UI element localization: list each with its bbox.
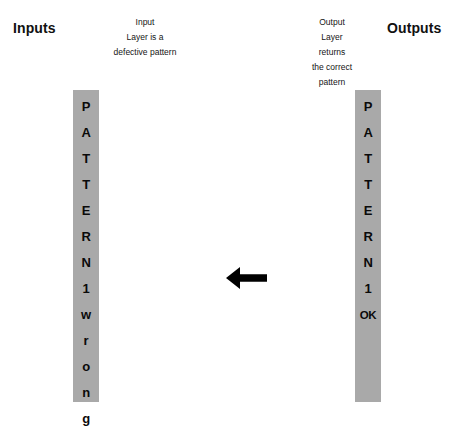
output-pattern-cell xyxy=(355,328,381,354)
input-pattern-cell: T xyxy=(73,146,99,172)
output-pattern-cell xyxy=(355,406,381,430)
input-caption-line-2: Layer is a xyxy=(85,30,205,45)
input-pattern-cell: R xyxy=(73,224,99,250)
input-caption-line-3: defective pattern xyxy=(85,45,205,60)
input-pattern-cell: E xyxy=(73,198,99,224)
output-pattern-cell xyxy=(355,354,381,380)
inputs-heading: Inputs xyxy=(13,20,56,36)
output-pattern-cell: R xyxy=(355,224,381,250)
output-pattern-cell: A xyxy=(355,120,381,146)
output-pattern-cell: T xyxy=(355,172,381,198)
output-pattern-cell: 1 xyxy=(355,276,381,302)
output-pattern-cell: T xyxy=(355,146,381,172)
diagram-canvas: Inputs Outputs Input Layer is a defectiv… xyxy=(0,0,463,430)
left-arrow-icon xyxy=(224,264,268,292)
output-pattern-cell xyxy=(355,380,381,406)
output-pattern-bar: P A T T E R N 1 OK xyxy=(355,90,381,402)
output-pattern-cell: P xyxy=(355,94,381,120)
input-pattern-cell: w xyxy=(73,302,99,328)
output-pattern-cell: OK xyxy=(355,302,381,328)
output-pattern-cell: N xyxy=(355,250,381,276)
input-pattern-cell: A xyxy=(73,120,99,146)
output-caption-line-4: the correct xyxy=(272,60,392,75)
output-caption-line-2: Layer xyxy=(272,30,392,45)
input-caption-line-1: Input xyxy=(85,15,205,30)
input-pattern-cell: T xyxy=(73,172,99,198)
input-pattern-cell: o xyxy=(73,354,99,380)
input-pattern-cell: P xyxy=(73,94,99,120)
input-pattern-cell: N xyxy=(73,250,99,276)
input-caption: Input Layer is a defective pattern xyxy=(85,15,205,60)
output-caption-line-3: returns xyxy=(272,45,392,60)
input-pattern-bar: P A T T E R N 1 w r o n g xyxy=(73,90,99,402)
input-pattern-cell: g xyxy=(73,406,99,430)
input-pattern-cell: n xyxy=(73,380,99,406)
output-caption-line-1: Output xyxy=(272,15,392,30)
output-caption: Output Layer returns the correct pattern xyxy=(272,15,392,90)
outputs-heading: Outputs xyxy=(387,20,441,36)
input-pattern-cell: 1 xyxy=(73,276,99,302)
output-pattern-cell: E xyxy=(355,198,381,224)
output-caption-line-5: pattern xyxy=(272,75,392,90)
input-pattern-cell: r xyxy=(73,328,99,354)
